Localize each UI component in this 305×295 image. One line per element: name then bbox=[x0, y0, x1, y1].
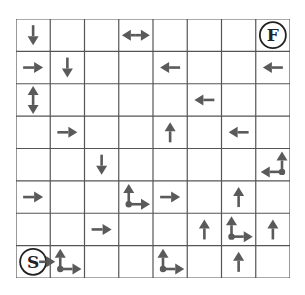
right-arrow-icon bbox=[57, 127, 77, 138]
up-down-arrow-icon bbox=[28, 86, 39, 114]
corner-up-right-arrow-icon bbox=[158, 249, 185, 275]
left-arrow-icon bbox=[263, 62, 283, 73]
down-arrow-icon bbox=[62, 58, 73, 78]
right-arrow-icon bbox=[160, 192, 180, 203]
maze-lines: SF bbox=[16, 19, 290, 278]
up-arrow-icon bbox=[267, 219, 278, 239]
left-arrow-icon bbox=[160, 62, 180, 73]
right-arrow-icon bbox=[23, 62, 43, 73]
down-arrow-icon bbox=[28, 25, 39, 45]
corner-up-right-arrow-icon bbox=[55, 249, 82, 275]
grid-lines bbox=[16, 19, 290, 278]
right-arrow-icon bbox=[23, 192, 43, 203]
left-arrow-icon bbox=[194, 94, 214, 105]
svg-text:S: S bbox=[27, 252, 39, 272]
corner-up-right-arrow-icon bbox=[226, 216, 253, 242]
up-arrow-icon bbox=[165, 122, 176, 142]
up-arrow-icon bbox=[233, 252, 244, 272]
corner-up-right-arrow-icon bbox=[123, 184, 150, 210]
left-right-arrow-icon bbox=[122, 30, 150, 41]
right-arrow-icon bbox=[92, 224, 112, 235]
finish-marker: F bbox=[260, 22, 286, 48]
svg-text:F: F bbox=[267, 25, 279, 45]
left-arrow-icon bbox=[229, 127, 249, 138]
corner-up-left-arrow-icon bbox=[261, 152, 288, 178]
up-arrow-icon bbox=[199, 219, 210, 239]
up-arrow-icon bbox=[233, 187, 244, 207]
down-arrow-icon bbox=[96, 155, 107, 175]
arrow-maze-grid: SF bbox=[16, 19, 290, 278]
